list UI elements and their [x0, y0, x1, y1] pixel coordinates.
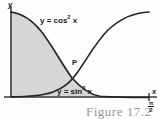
- cosine-label-suffix: x: [70, 16, 77, 25]
- y-axis-label: y: [8, 1, 12, 9]
- shaded-region: [11, 12, 149, 97]
- intersection-point-label: P: [72, 59, 77, 67]
- x-axis-label: x: [152, 88, 156, 96]
- sine-label-suffix: x: [85, 87, 92, 96]
- figure-caption: Figure 17.2: [86, 104, 151, 119]
- cosine-squared-curve-label: y = cos2 x: [40, 15, 77, 25]
- plot-canvas: [0, 0, 161, 119]
- sine-label-prefix: y = sin: [57, 87, 82, 96]
- cosine-label-prefix: y = cos: [40, 16, 67, 25]
- figure-container: y x π 2 y = cos2 x y = sin2 x P Figure 1…: [0, 0, 161, 119]
- sine-squared-curve-label: y = sin2 x: [57, 86, 92, 96]
